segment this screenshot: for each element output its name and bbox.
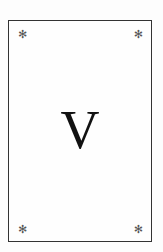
star-icon-top-right: ✻ [134, 29, 143, 40]
card: ✻ ✻ V ✻ ✻ [8, 20, 152, 242]
star-icon-top-left: ✻ [18, 29, 27, 40]
star-icon-bottom-left: ✻ [18, 224, 27, 235]
card-numeral: V [9, 103, 151, 157]
star-icon-bottom-right: ✻ [134, 224, 143, 235]
